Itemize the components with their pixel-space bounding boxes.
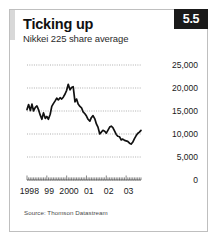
y-axis-tick-label: 25,000 [172, 60, 198, 70]
title-accent-bar [10, 10, 15, 40]
source-note: Source: Thomson Datastream [24, 209, 108, 216]
x-axis-tick-label: 99 [44, 186, 54, 196]
chart-plot-area: 25,00020,00015,00010,0005,0000 199899200… [10, 46, 209, 196]
x-axis-tick-label: 02 [104, 186, 114, 196]
x-axis-tick-label: 1998 [20, 186, 39, 196]
y-axis-tick-label: 15,000 [172, 106, 198, 116]
y-axis-tick-label: 5,000 [177, 152, 199, 162]
y-axis-tick-label: 20,000 [172, 83, 198, 93]
chart-subtitle: Nikkei 225 share average [23, 33, 128, 44]
y-axis-tick-label: 0 [193, 175, 198, 185]
chart-number-badge: 5.5 [174, 9, 208, 29]
y-axis-tick-label: 10,000 [172, 129, 198, 139]
gridlines-group [27, 65, 141, 180]
data-line-nikkei-225 [27, 84, 141, 144]
chart-title: Ticking up [23, 16, 93, 32]
x-axis-tick-label: 01 [84, 186, 94, 196]
line-chart-svg: 25,00020,00015,00010,0005,0000 199899200… [10, 46, 209, 196]
x-axis-labels-group: 1998992000010203 [20, 186, 134, 196]
y-axis-labels-group: 25,00020,00015,00010,0005,0000 [172, 60, 198, 185]
chart-card: 5.5 Ticking up Nikkei 225 share average … [9, 9, 208, 232]
x-axis-tick-label: 03 [124, 186, 134, 196]
x-axis-tick-label: 2000 [59, 186, 78, 196]
x-axis-tickmarks-group [27, 176, 141, 181]
